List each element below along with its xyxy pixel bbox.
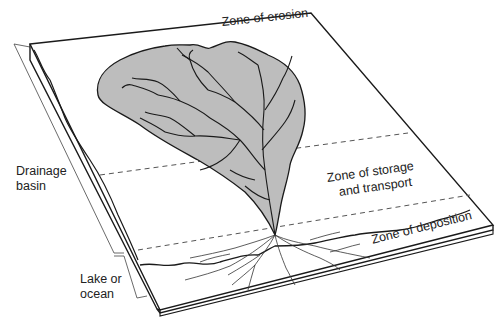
- label-ocean: ocean: [80, 287, 114, 302]
- block-diagram: [0, 0, 503, 321]
- label-lake-or: Lake or: [80, 272, 122, 287]
- label-drainage: Drainage: [16, 164, 67, 179]
- label-basin: basin: [16, 179, 46, 194]
